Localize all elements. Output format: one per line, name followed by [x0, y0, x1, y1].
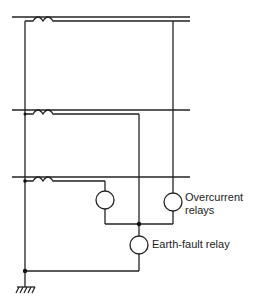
overcurrent-relays-label: Overcurrent relays — [185, 191, 243, 217]
overcurrent-relay-left-icon — [96, 191, 114, 209]
earth-ground-icon — [16, 287, 35, 293]
earth-fault-relay-icon — [130, 236, 148, 254]
star-point-junction-dot — [137, 222, 141, 226]
overcurrent-label-line1: Overcurrent — [185, 191, 243, 204]
overcurrent-label-line2: relays — [185, 204, 243, 217]
overcurrent-relay-right-icon — [164, 193, 182, 211]
ct2-junction-dot — [24, 113, 27, 116]
protection-scheme-diagram — [0, 0, 260, 307]
return-junction-dot — [23, 269, 27, 273]
ct3-junction-dot — [23, 179, 27, 183]
earth-fault-relay-label: Earth-fault relay — [152, 238, 230, 251]
